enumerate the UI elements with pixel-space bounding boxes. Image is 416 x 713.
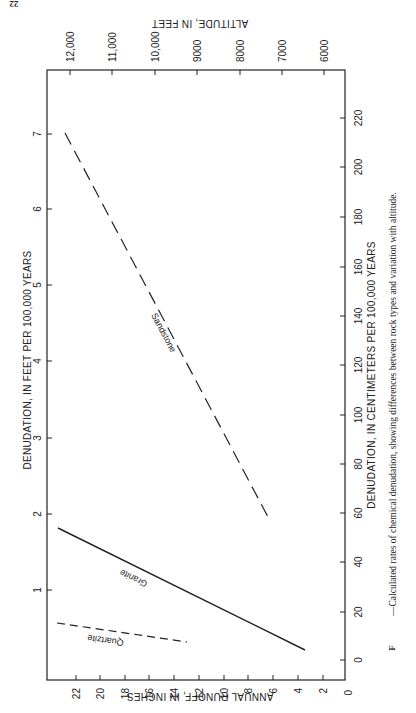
cm-axis-title: DENUDATION, IN CENTIMETERS PER 100,000 Y… — [366, 241, 377, 508]
feet-tick: 1 — [32, 587, 43, 593]
altitude-tick: 12,000 — [65, 31, 76, 62]
cm-tick: 200 — [353, 158, 364, 175]
cm-tick: 0 — [353, 657, 364, 663]
runoff-axis-title: ANNUAL RUNOFF, IN INCHES — [127, 691, 274, 702]
cm-tick: 180 — [353, 208, 364, 225]
altitude-tick: 10,000 — [150, 31, 161, 62]
feet-tick: 4 — [32, 358, 43, 364]
cm-tick: 60 — [353, 507, 364, 519]
cm-tick: 120 — [353, 356, 364, 373]
granite-line — [58, 528, 305, 650]
altitude-tick: 7000 — [277, 39, 288, 62]
feet-tick: 5 — [32, 282, 43, 288]
cm-tick: 220 — [353, 109, 364, 126]
figure-letter: F — [387, 645, 397, 651]
plot-frame — [47, 70, 345, 680]
altitude-tick: 9000 — [192, 39, 203, 62]
runoff-tick: 2 — [318, 688, 329, 694]
runoff-tick: 22 — [71, 688, 82, 700]
cm-tick: 20 — [353, 606, 364, 618]
feet-tick: 2 — [32, 511, 43, 517]
runoff-tick: 0 — [343, 690, 354, 696]
altitude-tick: 6000 — [319, 39, 330, 62]
page-number: 22 — [9, 0, 19, 9]
feet-axis-title: DENUDATION, IN FEET PER 100,000 YEARS — [22, 251, 33, 470]
cm-tick: 80 — [353, 458, 364, 470]
cm-tick: 40 — [353, 556, 364, 568]
feet-tick: 3 — [32, 435, 43, 441]
cm-tick: 140 — [353, 307, 364, 324]
altitude-tick: 8000 — [235, 39, 246, 62]
figure-caption: —Calculated rates of chemical denudation… — [388, 192, 398, 617]
quartzite-label: Quartzite — [87, 633, 125, 648]
runoff-tick: 4 — [293, 688, 304, 694]
altitude-axis: 12,000 11,000 10,000 9000 8000 7000 6000… — [65, 18, 330, 75]
altitude-tick: 11,000 — [107, 32, 118, 62]
sandstone-line — [65, 133, 268, 517]
sandstone-label: Sandstone — [149, 311, 178, 354]
runoff-tick: 20 — [95, 688, 106, 700]
altitude-axis-title: ALTITUDE, IN FEET — [152, 18, 249, 29]
chart-figure: 22 12,000 11,000 10,000 9000 8000 7000 6… — [0, 0, 416, 713]
cm-tick: 100 — [353, 406, 364, 423]
feet-tick: 7 — [32, 131, 43, 137]
feet-tick: 6 — [32, 206, 43, 212]
runoff-axis: 0 2 4 6 8 10 12 14 16 18 20 22 ANNUAL RU… — [71, 675, 354, 702]
cm-tick: 160 — [353, 258, 364, 275]
